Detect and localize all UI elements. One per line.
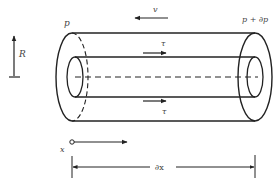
pressure-right-label: p + ∂p — [242, 15, 268, 24]
velocity-label: v — [153, 5, 158, 14]
shear-label-top: τ — [161, 39, 166, 48]
radius-label: R — [18, 49, 26, 59]
x-axis-label: x — [60, 145, 65, 154]
length-label: ∂x — [155, 163, 164, 172]
pressure-left-label: p — [64, 18, 70, 28]
x-axis-arrow — [70, 140, 127, 144]
cylinder-diagram: R p p + ∂p v τ τ x ∂x — [0, 0, 280, 189]
shear-label-bottom: τ — [162, 107, 167, 116]
